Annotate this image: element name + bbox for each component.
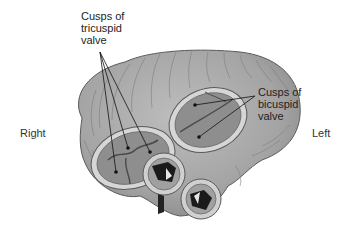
right-orientation-label: Right — [20, 127, 46, 139]
aortic-valve — [181, 179, 221, 219]
heart-illustration — [0, 0, 344, 244]
coronary-vessel — [158, 194, 164, 214]
left-orientation-label: Left — [312, 127, 330, 139]
bicuspid-label: Cusps of bicuspid valve — [258, 86, 301, 122]
heart-valves-diagram: Cusps of tricuspid valve Cusps of bicusp… — [0, 0, 344, 244]
pulmonary-valve — [143, 153, 185, 195]
tricuspid-label: Cusps of tricuspid valve — [81, 10, 124, 46]
